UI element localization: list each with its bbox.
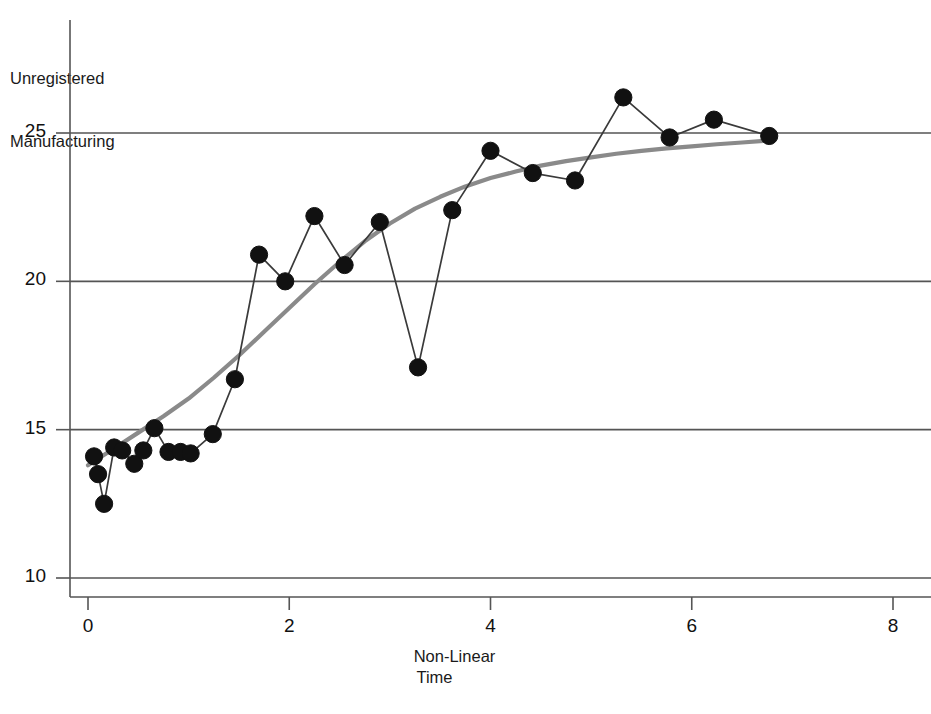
x-tick-label-4: 4 bbox=[471, 615, 511, 637]
x-tick-label-2: 2 bbox=[269, 615, 309, 637]
y-tick-label-25: 25 bbox=[0, 120, 46, 142]
x-axis-title: Non-Linear Time bbox=[0, 646, 931, 688]
x-tick-label-8: 8 bbox=[873, 615, 913, 637]
y-tick-label-10: 10 bbox=[0, 565, 46, 587]
chart-figure: Unregistered Manufacturing 1015202502468… bbox=[0, 0, 931, 714]
x-tick-label-6: 6 bbox=[672, 615, 712, 637]
x-axis-title-line1: Non-Linear bbox=[0, 646, 931, 667]
tick-label-layer: 1015202502468 bbox=[0, 0, 931, 714]
y-tick-label-15: 15 bbox=[0, 417, 46, 439]
x-tick-label-0: 0 bbox=[68, 615, 108, 637]
x-axis-title-line2: Time bbox=[0, 667, 931, 688]
y-tick-label-20: 20 bbox=[0, 268, 46, 290]
